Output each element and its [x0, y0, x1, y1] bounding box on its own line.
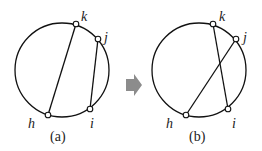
node-i	[225, 106, 231, 112]
node-j	[95, 36, 101, 42]
node-j	[233, 36, 239, 42]
label-k: k	[219, 9, 226, 24]
label-i: i	[232, 116, 236, 131]
label-j: j	[102, 30, 108, 45]
arrow-icon	[126, 74, 142, 96]
chord-h-j	[186, 39, 236, 115]
chord-h-k	[48, 24, 76, 115]
node-h	[45, 112, 51, 118]
node-i	[87, 106, 93, 112]
label-k: k	[81, 9, 88, 24]
chord-i-j	[90, 39, 98, 109]
node-k	[210, 21, 216, 27]
node-k	[73, 21, 79, 27]
chord-k-i	[213, 24, 228, 109]
panel-b: k j i h (b)	[152, 9, 247, 145]
node-h	[183, 112, 189, 118]
label-i: i	[90, 116, 94, 131]
circle-b	[152, 23, 246, 117]
panel-a: k j i h (a)	[15, 9, 109, 145]
label-h: h	[166, 116, 173, 131]
chord-swap-diagram: k j i h (a) k j i h (b)	[0, 0, 262, 151]
label-j: j	[241, 30, 247, 45]
label-h: h	[28, 116, 35, 131]
caption-a: (a)	[50, 129, 66, 145]
caption-b: (b)	[189, 129, 206, 145]
